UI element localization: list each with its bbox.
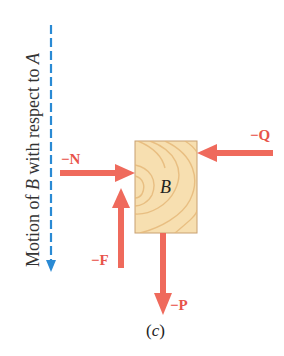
caption-letter: c <box>152 321 160 340</box>
motion-direction-arrow <box>46 25 56 272</box>
motion-label-middle: with respect to <box>23 64 43 179</box>
force-arrow-q <box>197 144 273 162</box>
free-body-diagram: Motion of B with respect to A B −N −Q −F… <box>0 0 284 356</box>
motion-label: Motion of B with respect to A <box>23 53 44 267</box>
motion-label-body: B <box>23 179 43 190</box>
figure-caption: (c) <box>146 321 165 341</box>
force-arrow-f <box>112 188 130 268</box>
force-label-p: −P <box>170 297 188 314</box>
force-label-f: −F <box>91 252 109 269</box>
block-label: B <box>160 177 171 198</box>
motion-label-prefix: Motion of <box>23 190 43 267</box>
force-label-n: −N <box>61 151 80 168</box>
force-label-q: −Q <box>250 127 270 144</box>
motion-label-ref: A <box>23 53 43 64</box>
